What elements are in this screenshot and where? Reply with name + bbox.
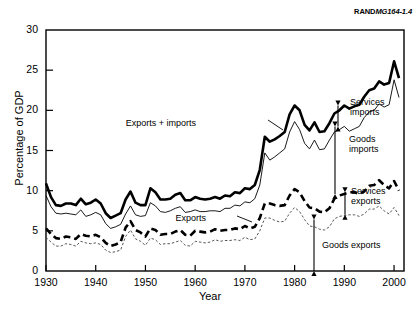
x-tick-label: 1980 — [273, 276, 317, 288]
chart-svg — [0, 0, 420, 313]
y-tick-label: 25 — [10, 63, 38, 75]
x-tick-label: 1950 — [123, 276, 167, 288]
x-tick-label: 1940 — [74, 276, 118, 288]
data-series-layer — [46, 61, 399, 252]
y-tick-label: 15 — [10, 144, 38, 156]
annotation-services-exports: Servicesexports — [351, 186, 386, 206]
annotation-line-1: Services — [350, 97, 385, 107]
annotation-exports-imports: Exports + imports — [126, 118, 196, 128]
figure-container: RANDMG164-1.4 Percentage of GDP Year 051… — [0, 0, 420, 313]
x-tick-label: 1970 — [223, 276, 267, 288]
x-tick-label: 1990 — [322, 276, 366, 288]
x-tick-label: 1930 — [24, 276, 68, 288]
annotation-line-2: imports — [349, 144, 379, 154]
y-tick-label: 5 — [10, 224, 38, 236]
annotation-goods-imports: Goodsimports — [349, 134, 379, 154]
x-axis-title: Year — [0, 290, 420, 302]
y-tick-label: 0 — [10, 264, 38, 276]
annotation-line-1: Goods — [349, 134, 379, 144]
x-tick-label: 2000 — [372, 276, 416, 288]
annotation-exports: Exports — [175, 213, 206, 223]
annotation-line-1: Services — [351, 186, 386, 196]
y-tick-label: 30 — [10, 23, 38, 35]
y-tick-label: 10 — [10, 184, 38, 196]
annotation-line-2: exports — [351, 196, 386, 206]
y-tick-label: 20 — [10, 103, 38, 115]
y-axis-title: Percentage of GDP — [13, 83, 25, 193]
annotation-services-imports: Servicesimports — [350, 97, 385, 117]
x-tick-label: 1960 — [173, 276, 217, 288]
annotation-line-2: imports — [350, 107, 385, 117]
annotation-goods-exports: Goods exports — [322, 240, 381, 250]
